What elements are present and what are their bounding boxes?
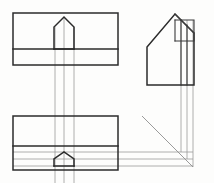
bottom-left-view-outline (13, 116, 118, 170)
technical-drawing-canvas: Orthographic Projection Exercise (0, 0, 214, 183)
bottom-left-view (13, 116, 118, 170)
projection-lines-group (13, 17, 193, 183)
top-left-view-outline (13, 13, 118, 65)
right-view-detail-slope-edge (175, 14, 194, 33)
orthographic-projection-drawing (0, 0, 214, 183)
right-pictorial-view (147, 14, 194, 85)
top-left-view (13, 13, 118, 65)
